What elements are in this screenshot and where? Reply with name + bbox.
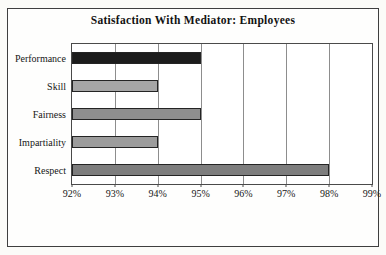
x-axis-tick: [243, 184, 244, 187]
chart-title: Satisfaction With Mediator: Employees: [8, 14, 378, 26]
x-tick-label: 96%: [234, 188, 252, 199]
category-label-performance: Performance: [10, 53, 66, 64]
x-axis-tick: [372, 184, 373, 187]
x-tick-label: 94%: [149, 188, 167, 199]
bar-fairness: [72, 108, 201, 120]
x-tick-label: 92%: [63, 188, 81, 199]
x-axis-tick: [200, 184, 201, 187]
chart-frame: Satisfaction With Mediator: Employees Pe…: [7, 8, 379, 247]
gridline: [201, 44, 202, 184]
bar-performance: [72, 52, 201, 64]
bar-respect: [72, 164, 329, 176]
gridline: [243, 44, 244, 184]
x-axis-tick: [329, 184, 330, 187]
x-tick-label: 98%: [320, 188, 338, 199]
x-tick-label: 97%: [277, 188, 295, 199]
gridline: [329, 44, 330, 184]
x-axis-tick: [286, 184, 287, 187]
x-tick-label: 99%: [363, 188, 381, 199]
category-label-impartiality: Impartiality: [10, 137, 66, 148]
x-tick-label: 95%: [191, 188, 209, 199]
bar-impartiality: [72, 136, 158, 148]
scanned-chart-page: { "chart_data": { "type": "bar", "orient…: [0, 0, 386, 255]
gridline: [286, 44, 287, 184]
x-axis-tick: [157, 184, 158, 187]
plot-area: [71, 43, 373, 185]
x-axis-tick: [114, 184, 115, 187]
x-tick-label: 93%: [106, 188, 124, 199]
category-label-respect: Respect: [10, 165, 66, 176]
x-axis-tick: [72, 184, 73, 187]
category-label-fairness: Fairness: [10, 109, 66, 120]
category-label-skill: Skill: [10, 81, 66, 92]
bar-skill: [72, 80, 158, 92]
